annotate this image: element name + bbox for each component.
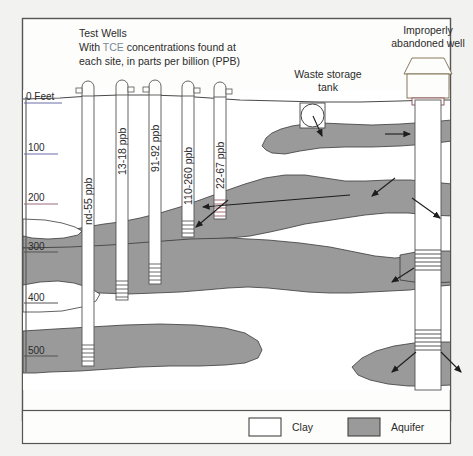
well-cap [214, 82, 226, 97]
well-cap [182, 81, 194, 96]
well-cap-tab [76, 88, 82, 93]
well-label: nd-55 ppb [82, 178, 94, 225]
depth-tick-label: 300 [28, 241, 45, 252]
abandoned-well-label-line2: abandoned well [391, 37, 465, 49]
caption-rest: concentrations found at [124, 41, 236, 53]
well-cap-tab [143, 87, 149, 92]
well-cap [116, 80, 128, 95]
tank-box [300, 103, 325, 128]
legend: Clay Aquifer [23, 411, 451, 444]
waste-tank-label-line2: tank [318, 81, 339, 93]
abandoned-well-label-line1: Improperly [403, 24, 453, 36]
depth-tick-label: 400 [28, 292, 45, 303]
diagram-canvas: 0 Feet 100 200 300 400 500 Test Wells Wi… [0, 0, 473, 456]
well-label: 91-92 ppb [149, 125, 161, 172]
waste-tank-label-line1: Waste storage [294, 68, 361, 80]
abandoned-well-casing [415, 100, 441, 390]
legend-label-aquifer: Aquifer [391, 421, 425, 433]
legend-box [23, 411, 451, 444]
well-cap-tab [226, 89, 232, 94]
well-cap [149, 80, 161, 95]
depth-tick-label: 0 Feet [26, 91, 55, 102]
well-casing [82, 96, 94, 366]
wellhouse-body [407, 74, 449, 98]
depth-tick-label: 500 [28, 345, 45, 356]
well-label: 110-260 ppb [182, 147, 194, 205]
well-casing [116, 95, 128, 300]
depth-tick-label: 100 [28, 142, 45, 153]
caption-tce-word: TCE [103, 41, 124, 53]
caption-line-2: With TCE concentrations found at [79, 41, 236, 53]
well-label: 22-67 ppb [214, 142, 226, 189]
legend-label-clay: Clay [292, 421, 314, 433]
legend-swatch-clay [249, 418, 281, 436]
caption-line-3: each site, in parts per billion (PPB) [79, 55, 240, 67]
well-casing [149, 95, 161, 284]
wellhouse-roof [404, 58, 452, 74]
well-cap-tab [128, 87, 134, 92]
caption-line-1: Test Wells [79, 27, 127, 39]
well-label: 13-18 ppb [116, 128, 128, 175]
depth-tick-label: 200 [28, 192, 45, 203]
caption-with-word: With [79, 41, 103, 53]
legend-swatch-aquifer [348, 418, 380, 436]
well-cap [82, 81, 94, 96]
well-cap-tab [194, 88, 200, 93]
